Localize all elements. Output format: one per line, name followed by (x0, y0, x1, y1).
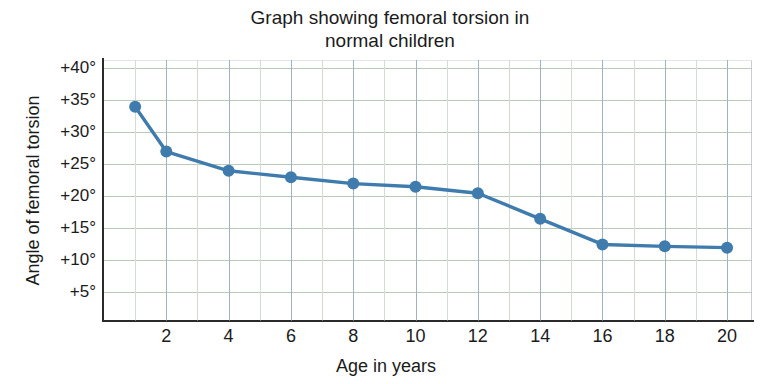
data-point (534, 213, 546, 225)
x-axis-tick-label: 10 (396, 326, 436, 347)
x-axis-tick-label: 4 (209, 326, 249, 347)
y-axis-tick-label: +25° (18, 154, 96, 174)
data-series-layer (104, 60, 752, 320)
data-point (596, 238, 608, 250)
series-line (135, 107, 727, 248)
data-point (129, 101, 141, 113)
data-point (721, 242, 733, 254)
x-axis-tick-label: 8 (333, 326, 373, 347)
y-axis-tick-label: +20° (18, 186, 96, 206)
y-axis-tick-label: +40° (18, 58, 96, 78)
y-axis-tick-label: +30° (18, 122, 96, 142)
x-axis-tick-label: 2 (146, 326, 186, 347)
x-axis-tick-label: 18 (645, 326, 685, 347)
x-axis-tick-label: 12 (458, 326, 498, 347)
data-point (285, 171, 297, 183)
y-axis-tick-label: +15° (18, 218, 96, 238)
x-axis-tick-label: 16 (582, 326, 622, 347)
data-point (347, 178, 359, 190)
data-point (160, 146, 172, 158)
data-point (410, 181, 422, 193)
x-axis-tick-label: 6 (271, 326, 311, 347)
chart-title: Graph showing femoral torsion in normal … (150, 6, 630, 52)
x-axis-line (102, 320, 754, 322)
plot-area (104, 60, 752, 320)
series-markers (129, 101, 733, 254)
data-point (659, 240, 671, 252)
x-axis-tick-label: 14 (520, 326, 560, 347)
x-axis-title: Age in years (0, 356, 772, 377)
chart-figure: Graph showing femoral torsion in normal … (0, 0, 772, 384)
data-point (472, 187, 484, 199)
y-axis-tick-label: +35° (18, 90, 96, 110)
y-axis-tick-label: +5° (18, 282, 96, 302)
x-axis-tick-label: 20 (707, 326, 747, 347)
y-axis-tick-label: +10° (18, 250, 96, 270)
data-point (223, 165, 235, 177)
